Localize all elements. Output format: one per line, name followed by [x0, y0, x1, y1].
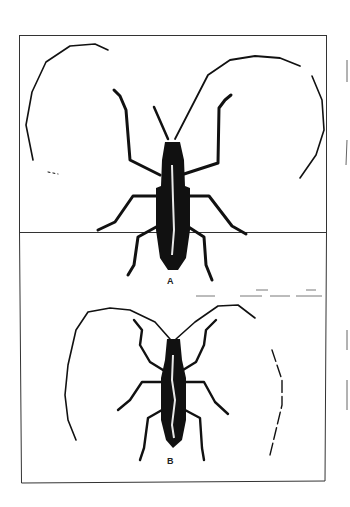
- panel-label-a: A: [167, 276, 174, 286]
- panel-divider: [196, 290, 322, 296]
- panel-label-b: B: [167, 456, 174, 466]
- illustration-plate: [0, 0, 350, 507]
- edge-marks: [346, 60, 347, 410]
